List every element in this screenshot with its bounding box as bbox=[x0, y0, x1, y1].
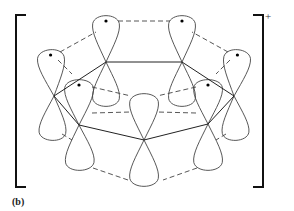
p-orbital-lobe bbox=[130, 140, 159, 186]
left-bracket bbox=[16, 15, 26, 187]
electron-dot bbox=[49, 53, 52, 56]
p-orbital-lobes bbox=[37, 16, 250, 187]
p-orbital-lobe bbox=[223, 50, 250, 96]
pi-overlap-dash bbox=[157, 112, 196, 113]
p-orbital-lobe bbox=[37, 50, 64, 96]
pi-overlap-dash bbox=[163, 168, 197, 180]
p-orbital-lobe bbox=[65, 125, 94, 170]
pi-overlap-dash bbox=[60, 32, 96, 52]
sigma-bond bbox=[79, 125, 144, 140]
p-orbital-lobe bbox=[39, 96, 66, 140]
electron-dot bbox=[104, 19, 107, 22]
panel-label: (b) bbox=[12, 196, 24, 207]
sigma-bond bbox=[144, 124, 208, 140]
pi-overlap-dash bbox=[192, 32, 228, 52]
p-orbital-lobe bbox=[93, 16, 120, 62]
p-orbital-lobe bbox=[169, 16, 196, 62]
electron-dot bbox=[236, 53, 239, 56]
right-bracket bbox=[253, 15, 263, 187]
pi-overlap-dash bbox=[93, 168, 128, 180]
tropylium-orbital-diagram bbox=[0, 0, 294, 211]
electron-dot bbox=[180, 19, 183, 22]
pi-overlap-dash bbox=[92, 112, 131, 113]
p-orbital-lobe bbox=[194, 124, 223, 170]
p-orbital-lobe bbox=[222, 96, 249, 140]
electron-dot bbox=[206, 83, 209, 86]
electron-dot bbox=[77, 83, 80, 86]
radical-electron-dots bbox=[49, 19, 239, 86]
positive-charge-sign: + bbox=[265, 10, 271, 22]
p-orbital-lobe bbox=[130, 94, 159, 140]
